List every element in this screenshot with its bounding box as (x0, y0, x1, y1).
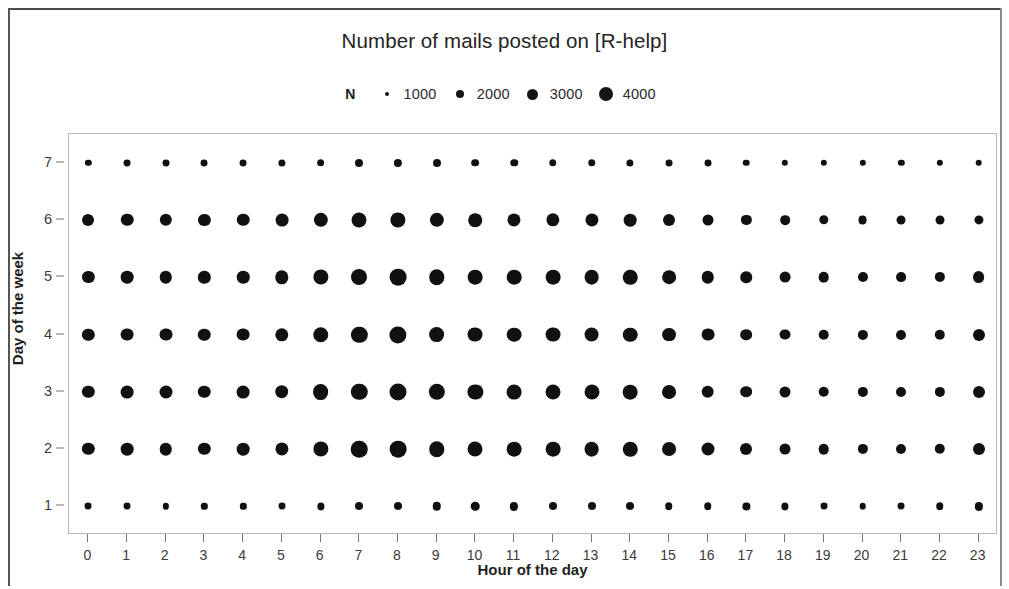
legend-dot-icon (372, 92, 402, 96)
y-tick-mark (56, 505, 64, 506)
bubble-point (507, 270, 522, 285)
bubble-point (198, 443, 210, 455)
bubble-point (507, 384, 522, 399)
x-tick-mark (397, 534, 398, 542)
bubble-point (201, 159, 208, 166)
bubble-point (201, 503, 207, 509)
y-axis: 1234567 (28, 133, 64, 534)
bubble-point (701, 328, 714, 341)
bubble-point (859, 503, 866, 510)
bubble-point (857, 387, 867, 397)
bubble-point (975, 502, 983, 510)
bubble-point (508, 213, 521, 226)
bubble-point (973, 328, 985, 340)
x-tick-mark (784, 534, 785, 542)
bubble-point (472, 159, 480, 167)
bubble-point (160, 214, 172, 226)
y-tick-label: 3 (26, 383, 52, 399)
bubble-point (121, 385, 134, 398)
bubble-point (780, 272, 791, 283)
bubble-point (468, 270, 483, 285)
bubble-point (584, 327, 599, 342)
bubble-point (741, 215, 751, 225)
bubble-point (545, 442, 560, 457)
bubble-point (468, 384, 483, 399)
bubble-point (819, 444, 830, 455)
bubble-point (623, 442, 637, 456)
bubble-point (937, 159, 943, 165)
bubble-point (896, 329, 906, 339)
bubble-point (278, 503, 285, 510)
bubble-point (743, 503, 750, 510)
bubble-point (275, 214, 288, 227)
bubble-point (82, 271, 94, 283)
bubble-point (351, 441, 368, 458)
bubble-point (471, 502, 480, 511)
bubble-point (468, 442, 483, 457)
bubble-point (355, 159, 363, 167)
bubble-point (588, 159, 596, 167)
legend-dot-icon (518, 89, 548, 100)
bubble-point (429, 384, 445, 400)
bubble-point (351, 384, 367, 400)
bubble-point (313, 213, 327, 227)
bubble-point (859, 159, 865, 165)
x-tick-mark (978, 534, 979, 542)
bubble-point (237, 271, 250, 284)
legend-entry: 3000 (518, 86, 591, 102)
y-tick-mark (56, 390, 64, 391)
bubble-point (819, 215, 828, 224)
bubble-point (588, 502, 596, 510)
bubble-point (819, 386, 830, 397)
y-tick-label: 1 (26, 497, 52, 513)
bubble-point (433, 159, 441, 167)
legend-entry: 1000 (372, 86, 445, 102)
legend-label: 2000 (477, 86, 510, 102)
y-tick-mark (56, 448, 64, 449)
figure-page: Number of mails posted on [R-help] N 100… (0, 0, 1009, 589)
bubble-point (82, 214, 94, 226)
bubble-point (82, 328, 94, 340)
bubble-point (510, 159, 518, 167)
bubble-point (468, 327, 483, 342)
bubble-point (545, 327, 560, 342)
x-tick-mark (862, 534, 863, 542)
legend-entry: 2000 (445, 86, 518, 102)
bubble-point (352, 212, 367, 227)
bubble-point (936, 503, 944, 511)
bubble-point (701, 385, 714, 398)
bubble-point (394, 159, 402, 167)
bubble-point (704, 159, 711, 166)
bubble-point (741, 271, 753, 283)
bubble-point (780, 215, 790, 225)
x-tick-mark (900, 534, 901, 542)
bubble-point (662, 385, 676, 399)
x-tick-mark (939, 534, 940, 542)
bubble-point (935, 444, 945, 454)
legend-title: N (345, 86, 355, 102)
bubble-point (240, 503, 246, 509)
bubble-point (584, 384, 599, 399)
legend-entry: 4000 (591, 86, 664, 102)
y-tick-mark (56, 276, 64, 277)
bubble-point (430, 213, 444, 227)
bubble-point (662, 328, 676, 342)
bubble-point (85, 503, 92, 510)
bubble-point (390, 212, 405, 227)
bubble-point (390, 441, 407, 458)
bubble-point (896, 444, 906, 454)
bubble-point (896, 272, 906, 282)
bubble-point (390, 269, 407, 286)
size-legend: N 1000200030004000 (0, 86, 1009, 102)
bubble-point (429, 269, 445, 285)
x-tick-mark (745, 534, 746, 542)
y-tick-label: 2 (26, 440, 52, 456)
legend-dot-icon (445, 90, 475, 98)
x-tick-mark (629, 534, 630, 542)
bubble-point (741, 329, 753, 341)
bubble-point (780, 386, 791, 397)
x-tick-mark (320, 534, 321, 542)
x-tick-mark (513, 534, 514, 542)
bubble-point (278, 159, 285, 166)
bubble-point (545, 270, 560, 285)
